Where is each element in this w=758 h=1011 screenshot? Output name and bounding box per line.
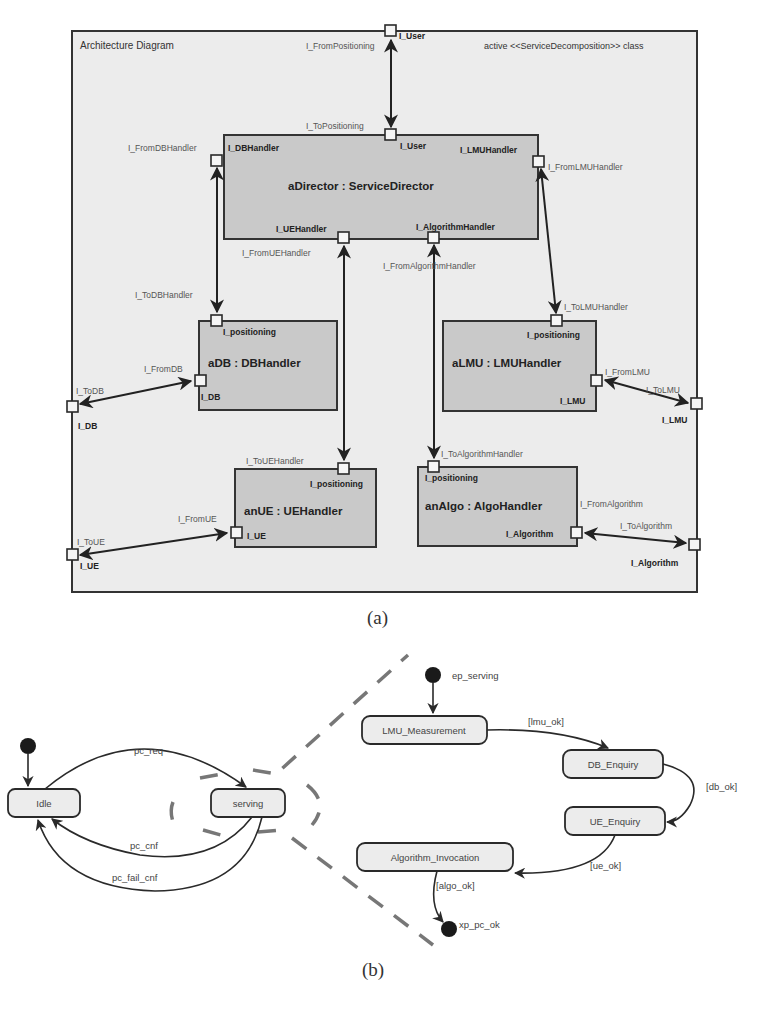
transition-label-ue-ok: [ue_ok] xyxy=(590,860,621,871)
callout-dash xyxy=(200,774,222,778)
transition-algo-ok xyxy=(434,871,443,922)
director-port-uehandler[interactable] xyxy=(338,232,349,243)
transition-label-algo-ok: [algo_ok] xyxy=(436,880,475,891)
label-from-positioning: I_FromPositioning xyxy=(306,41,375,51)
state-algorithm-invocation-label: Algorithm_Invocation xyxy=(391,852,480,863)
ue-port-positioning[interactable] xyxy=(338,463,349,474)
label-from-algorithm: I_FromAlgorithm xyxy=(580,499,643,509)
exit-point-label: xp_pc_ok xyxy=(459,919,500,930)
exit-point-xp-pc-ok xyxy=(441,921,457,937)
callout-ellipse-left xyxy=(171,802,177,830)
label-to-algorithmhandler: I_ToAlgorithmHandler xyxy=(441,449,523,459)
port-label-lmuhandler: I_LMUHandler xyxy=(460,145,518,155)
port-label-lmu-ilmu: I_LMU xyxy=(560,396,586,406)
director-port-lmuhandler[interactable] xyxy=(533,156,544,167)
entry-point-label: ep_serving xyxy=(452,670,498,681)
state-ue-enquiry-label: UE_Enquiry xyxy=(590,816,641,827)
block-ue-name: anUE : UEHandler xyxy=(244,505,343,517)
lmu-port-ilmu[interactable] xyxy=(591,375,602,386)
transition-lmu-ok xyxy=(487,730,608,748)
caption-a: (a) xyxy=(367,607,388,629)
label-from-algorithmhandler: I_FromAlgorithmHandler xyxy=(383,261,476,271)
transition-label-lmu-ok: [lmu_ok] xyxy=(528,716,564,727)
label-from-ue: I_FromUE xyxy=(178,514,217,524)
frame-port-user[interactable] xyxy=(385,25,396,36)
transition-db-ok xyxy=(663,764,694,822)
port-label-db-idb: I_DB xyxy=(201,392,220,402)
initial-pseudostate xyxy=(20,738,36,754)
label-from-lmuhandler: I_FromLMUHandler xyxy=(548,162,623,172)
transition-label-pc-fail-cnf: pc_fail_cnf xyxy=(112,872,158,883)
db-port-positioning[interactable] xyxy=(211,315,222,326)
db-port-idb[interactable] xyxy=(195,375,206,386)
ue-port-iue[interactable] xyxy=(231,527,242,538)
caption-b: (b) xyxy=(362,959,384,981)
state-lmu-measurement-label: LMU_Measurement xyxy=(382,725,466,736)
architecture-diagram: Architecture Diagram active <<ServiceDec… xyxy=(67,25,702,629)
block-db-name: aDB : DBHandler xyxy=(208,357,301,369)
label-from-dbhandler: I_FromDBHandler xyxy=(128,143,197,153)
label-from-uehandler: I_FromUEHandler xyxy=(242,248,311,258)
port-label-director-user: I_User xyxy=(400,141,427,151)
label-to-positioning: I_ToPositioning xyxy=(306,121,364,131)
label-from-lmu: I_FromLMU xyxy=(605,367,650,377)
state-db-enquiry-label: DB_Enquiry xyxy=(588,759,639,770)
frame-port-label-algorithm: I_Algorithm xyxy=(631,558,679,568)
label-to-lmuhandler: I_ToLMUHandler xyxy=(564,302,628,312)
algo-port-ialgorithm[interactable] xyxy=(571,527,582,538)
block-director-name: aDirector : ServiceDirector xyxy=(288,180,434,192)
frame-port-label-ue: I_UE xyxy=(80,561,99,571)
algo-port-positioning[interactable] xyxy=(428,461,439,472)
state-idle-label: Idle xyxy=(36,798,51,809)
frame-port-ue[interactable] xyxy=(67,549,78,560)
lmu-port-positioning[interactable] xyxy=(551,315,562,326)
port-label-ue-iue: I_UE xyxy=(247,531,266,541)
state-serving-label: serving xyxy=(233,798,264,809)
frame-port-algorithm[interactable] xyxy=(689,539,700,550)
block-algo-name: anAlgo : AlgoHandler xyxy=(425,500,543,512)
label-to-lmu: I_ToLMU xyxy=(646,385,680,395)
port-label-uehandler: I_UEHandler xyxy=(276,224,327,234)
callout-ellipse-bottom-right xyxy=(258,830,282,832)
frame-port-db[interactable] xyxy=(67,401,78,412)
block-lmu-name: aLMU : LMUHandler xyxy=(452,357,562,369)
frame-port-lmu[interactable] xyxy=(691,398,702,409)
callout-ellipse-right xyxy=(307,785,320,825)
label-to-algorithm: I_ToAlgorithm xyxy=(620,521,672,531)
figure-canvas: Architecture Diagram active <<ServiceDec… xyxy=(0,0,758,1011)
director-port-user[interactable] xyxy=(385,129,396,140)
port-label-ue-positioning: I_positioning xyxy=(310,479,363,489)
state-machine-diagram: Idle serving pc_req pc_cnf pc_fail_cnf e… xyxy=(8,655,737,981)
frame-port-label-lmu: I_LMU xyxy=(662,415,688,425)
port-label-db-positioning: I_positioning xyxy=(223,327,276,337)
callout-upper-line xyxy=(253,655,408,774)
label-to-uehandler: I_ToUEHandler xyxy=(246,456,304,466)
frame-port-label-user: I_User xyxy=(399,31,426,41)
frame-title: Architecture Diagram xyxy=(80,40,174,51)
callout-ellipse-bottom-left xyxy=(203,830,228,837)
frame-port-label-db: I_DB xyxy=(78,421,97,431)
port-label-algorithmhandler: I_AlgorithmHandler xyxy=(416,222,496,232)
director-port-dbhandler[interactable] xyxy=(211,155,222,166)
label-to-dbhandler: I_ToDBHandler xyxy=(135,290,193,300)
transition-label-db-ok: [db_ok] xyxy=(706,781,737,792)
label-from-db: I_FromDB xyxy=(144,364,183,374)
director-port-algorithmhandler[interactable] xyxy=(428,232,439,243)
port-label-lmu-positioning: I_positioning xyxy=(527,330,580,340)
label-to-db: I_ToDB xyxy=(76,386,104,396)
port-label-algo-ialgorithm: I_Algorithm xyxy=(506,529,554,539)
entry-point-ep-serving xyxy=(425,667,441,683)
label-to-ue: I_ToUE xyxy=(77,537,105,547)
frame-stereotype: active <<ServiceDecomposition>> class xyxy=(484,41,644,51)
port-label-dbhandler: I_DBHandler xyxy=(228,143,280,153)
port-label-algo-positioning: I_positioning xyxy=(425,473,478,483)
transition-label-pc-req: pc_req xyxy=(134,745,163,756)
transition-label-pc-cnf: pc_cnf xyxy=(130,840,158,851)
